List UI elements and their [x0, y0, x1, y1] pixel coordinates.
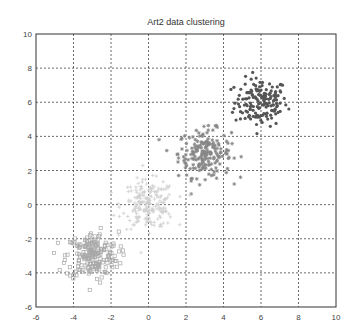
x-tick-label: -4: [70, 313, 78, 322]
series-cluster-2: [157, 124, 243, 196]
x-tick-label: 4: [221, 313, 226, 322]
y-tick-label: 6: [28, 98, 33, 107]
series-cluster-3: [109, 164, 191, 255]
x-tick-label: 2: [184, 313, 189, 322]
axis-ticks: -6-4-20246810-6-4-20246810: [23, 30, 341, 322]
y-tick-label: 4: [28, 132, 33, 141]
y-tick-label: 8: [28, 64, 33, 73]
x-tick-label: 6: [259, 313, 264, 322]
scatter-plot: -6-4-20246810-6-4-20246810: [0, 0, 355, 334]
x-tick-label: -6: [32, 313, 40, 322]
y-tick-label: 2: [28, 167, 33, 176]
x-tick-label: 10: [332, 313, 341, 322]
x-tick-label: 0: [146, 313, 151, 322]
x-tick-label: 8: [296, 313, 301, 322]
y-tick-label: 10: [23, 30, 32, 39]
data-points: [52, 71, 290, 292]
y-tick-label: 0: [28, 201, 33, 210]
x-tick-label: -2: [107, 313, 115, 322]
series-cluster-1: [229, 71, 290, 135]
series-cluster-4: [52, 226, 125, 291]
y-tick-label: -2: [25, 235, 33, 244]
grid-lines: [36, 34, 336, 307]
y-tick-label: -6: [25, 303, 33, 312]
y-tick-label: -4: [25, 269, 33, 278]
